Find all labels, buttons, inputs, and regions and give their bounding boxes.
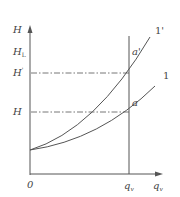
x-axis-arrow-icon <box>155 172 163 177</box>
point-a-prime-label: a' <box>132 46 141 57</box>
curve-1-prime-label: 1' <box>155 25 164 36</box>
h-prime-label: H' <box>12 66 24 78</box>
point-a-label: a <box>132 97 138 108</box>
x-axis-label: qv <box>153 180 163 192</box>
y-axis-arrow-icon <box>28 25 33 33</box>
h-label: H <box>12 106 22 117</box>
origin-label: 0 <box>27 179 34 190</box>
hl-label: HL <box>12 46 26 58</box>
curve-1-label: 1 <box>163 70 169 81</box>
pump-curve-diagram: H HL H' H 0 a' a 1' 1 qv qv <box>0 0 180 197</box>
y-axis-label: H <box>12 24 22 35</box>
qv-marker-label: qv <box>124 180 134 192</box>
curve-1 <box>30 86 155 150</box>
